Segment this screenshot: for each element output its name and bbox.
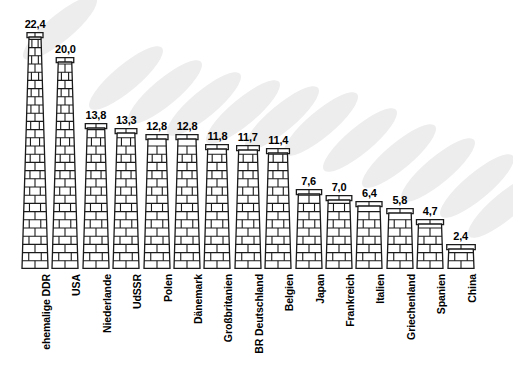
chimney-shape (324, 195, 354, 269)
category-label: BR Deutschland (253, 274, 265, 354)
bar-value-label: 12,8 (146, 121, 167, 132)
chimney-bar: 12,8 (142, 121, 172, 269)
chimney-bar: 7,0 (324, 182, 354, 269)
category-label: Italien (374, 274, 386, 304)
chimney-body (446, 244, 476, 269)
chimney-body (50, 57, 80, 269)
bar-value-label: 13,8 (85, 110, 106, 121)
chimney-body (81, 123, 111, 269)
bar-value-label: 11,4 (268, 135, 288, 146)
chimney-body (415, 219, 445, 269)
chimney-shape (20, 32, 50, 269)
chimney-bar: 4,7 (415, 206, 445, 269)
co2-emissions-chimney-chart: 22,4ehemalige DDR20,0USA13,8Niederlande1… (0, 0, 513, 380)
bar-value-label: 13,3 (116, 115, 137, 126)
chimney-bar: 20,0 (50, 44, 80, 269)
category-label: USA (70, 274, 82, 296)
chimney-bar: 22,4 (20, 19, 50, 269)
category-label: Japan (314, 274, 326, 304)
category-label: Frankreich (344, 274, 356, 327)
chimney-body (111, 128, 141, 269)
bar-value-label: 7,6 (301, 176, 316, 187)
chimney-bars-plot: 22,4ehemalige DDR20,0USA13,8Niederlande1… (0, 0, 513, 380)
category-label: China (466, 274, 478, 303)
chimney-shape (50, 57, 80, 269)
chimney-shape (263, 148, 293, 269)
bar-value-label: 6,4 (362, 188, 377, 199)
bar-value-label: 22,4 (25, 19, 46, 30)
chimney-shape (415, 219, 445, 269)
chimney-bar: 13,8 (81, 110, 111, 269)
bar-value-label: 20,0 (55, 44, 76, 55)
chimney-shape (81, 123, 111, 269)
bar-value-label: 11,8 (207, 131, 227, 142)
chimney-shape (446, 244, 476, 269)
chimney-body (20, 32, 50, 269)
chimney-bar: 6,4 (354, 188, 384, 269)
category-label: Griechenland (405, 274, 417, 340)
bar-value-label: 7,0 (332, 182, 347, 193)
chimney-body (142, 134, 172, 269)
chimney-bar: 11,4 (263, 135, 293, 269)
category-label: Dänemark (192, 274, 204, 324)
chimney-shape (202, 144, 232, 269)
category-label: UdSSR (131, 274, 143, 309)
bar-value-label: 2,4 (453, 231, 468, 242)
bar-value-label: 5,8 (392, 195, 407, 206)
category-label: ehemalige DDR (40, 274, 52, 350)
chimney-shape (385, 208, 415, 269)
chimney-bar: 2,4 (446, 231, 476, 269)
chimney-shape (354, 201, 384, 269)
chimney-shape (111, 128, 141, 269)
chimney-bar: 11,8 (202, 131, 232, 269)
bar-value-label: 11,7 (238, 132, 258, 143)
category-label: Belgien (283, 274, 295, 311)
chimney-shape (172, 134, 202, 269)
chimney-body (324, 195, 354, 269)
chimney-shape (142, 134, 172, 269)
chimney-body (172, 134, 202, 269)
bar-value-label: 12,8 (177, 121, 198, 132)
chimney-body (385, 208, 415, 269)
chimney-bar: 7,6 (294, 176, 324, 269)
chimney-body (294, 189, 324, 269)
category-label: Spanien (435, 274, 447, 314)
chimney-shape (294, 189, 324, 269)
chimney-bar: 5,8 (385, 195, 415, 269)
category-label: Großbritanien (222, 274, 234, 342)
category-label: Polen (162, 274, 174, 302)
chimney-body (202, 144, 232, 269)
chimney-body (263, 148, 293, 269)
chimney-bar: 12,8 (172, 121, 202, 269)
bar-value-label: 4,7 (423, 206, 438, 217)
category-label: Niederlande (101, 274, 113, 333)
chimney-bar: 11,7 (233, 132, 263, 269)
chimney-shape (233, 145, 263, 269)
chimney-body (354, 201, 384, 269)
chimney-body (233, 145, 263, 269)
chimney-bar: 13,3 (111, 115, 141, 269)
